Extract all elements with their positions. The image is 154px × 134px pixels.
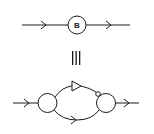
equivalence-symbol (72, 51, 80, 65)
blob-b-label: B (74, 21, 80, 30)
triangle-vertex-icon (72, 81, 81, 91)
upper-line (81, 86, 96, 92)
bottom-loop-diagram (13, 81, 139, 124)
small-circle-vertex-icon (96, 92, 101, 97)
left-vertex-blob (38, 94, 57, 113)
feynman-diagram: B (0, 0, 154, 134)
lower-line (54, 110, 99, 120)
upper-line (55, 86, 72, 97)
top-propagator: B (22, 16, 130, 34)
